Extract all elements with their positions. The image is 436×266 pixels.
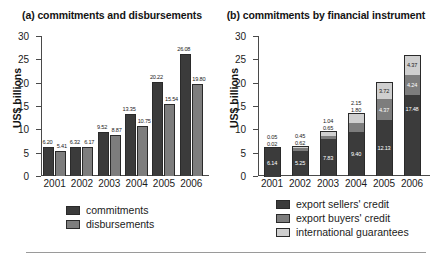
segment-value-label: 2.15 xyxy=(351,100,361,106)
bar-commitments-2004[interactable]: 13.35 xyxy=(125,114,136,176)
segment-export-sellers-credit-2003[interactable]: 7.83 xyxy=(320,139,337,176)
panel-a-ytick-label: 25 xyxy=(18,54,29,65)
segment-value-label: 1.04 xyxy=(323,118,333,124)
chart-panel-a: (a) commitments and disbursements US$ bi… xyxy=(0,0,218,250)
panel-b-ytick-label: 5 xyxy=(240,147,246,158)
bar-disbursements-2001[interactable]: 5.41 xyxy=(55,151,66,176)
legend-item-export-buyers-credit[interactable]: export buyers' credit xyxy=(276,211,409,225)
bar-disbursements-2004[interactable]: 10.75 xyxy=(137,126,148,176)
stack-2004[interactable]: 2.15 1.80 9.40 xyxy=(348,113,365,176)
bar-disbursements-2003[interactable]: 8.87 xyxy=(110,135,121,176)
bar-group-2006: 26.08 19.80 xyxy=(179,36,203,176)
segment-value-label: 0.02 xyxy=(267,141,277,147)
panel-a-ytick: 0 xyxy=(36,176,41,177)
segment-export-sellers-credit-2005[interactable]: 12.13 xyxy=(376,120,393,176)
stack-2006[interactable]: 4.37 4.24 17.48 xyxy=(404,55,421,177)
chart-panel-b: (b) commitments by financial instrument … xyxy=(214,0,436,250)
bar-value-label: 5.41 xyxy=(57,143,67,149)
segment-value-label: 4.37 xyxy=(379,107,389,113)
panel-a-legend: commitments disbursements xyxy=(66,203,154,231)
segment-export-sellers-credit-2002[interactable]: 5.25 xyxy=(292,151,309,176)
bar-group-2005: 20.22 15.54 xyxy=(152,36,176,176)
bar-disbursements-2006[interactable]: 19.80 xyxy=(192,84,203,176)
segment-value-label: 5.25 xyxy=(295,160,305,166)
panel-a-ytick-label: 5 xyxy=(23,147,29,158)
segment-value-label: 0.65 xyxy=(323,125,333,131)
panel-b-title: (b) commitments by financial instrument xyxy=(214,9,436,21)
legend-swatch-icon xyxy=(276,214,290,223)
panel-b-ytick-label: 30 xyxy=(235,31,246,42)
panel-a-ytick-label: 30 xyxy=(18,31,29,42)
segment-value-label: 0.62 xyxy=(295,140,305,146)
bottom-divider xyxy=(26,252,426,253)
bar-value-label: 6.17 xyxy=(84,139,94,145)
stacked-bar-group-2006: 4.37 4.24 17.48 xyxy=(400,36,424,176)
stack-2003[interactable]: 1.04 0.65 7.83 xyxy=(320,131,337,176)
x-label-2003: 2003 xyxy=(97,178,121,192)
bar-commitments-2006[interactable]: 26.08 xyxy=(180,54,191,176)
stack-2005[interactable]: 3.72 4.37 12.13 xyxy=(376,82,393,176)
x-label-2001: 2001 xyxy=(43,178,67,192)
panel-b-plot-area: 30 25 20 15 10 5 0 0.05 0.02 6.1 xyxy=(258,36,426,176)
segment-value-label: 12.13 xyxy=(378,145,391,151)
panel-a-ytick-label: 15 xyxy=(18,101,29,112)
bar-group-2003: 9.52 8.87 xyxy=(97,36,121,176)
bar-value-label: 9.52 xyxy=(97,124,107,130)
x-label-2005: 2005 xyxy=(152,178,176,192)
panel-b-ytick-label: 0 xyxy=(240,171,246,182)
legend-item-disbursements[interactable]: disbursements xyxy=(66,217,154,231)
bar-value-label: 10.75 xyxy=(138,118,151,124)
panel-b-ytick-label: 25 xyxy=(235,54,246,65)
segment-export-buyers-credit-2004[interactable] xyxy=(348,123,365,131)
panel-b-ytick-label: 15 xyxy=(235,101,246,112)
segment-export-sellers-credit-2004[interactable]: 9.40 xyxy=(348,132,365,177)
bar-value-label: 19.80 xyxy=(192,76,205,82)
stacked-bar-group-2001: 0.05 0.02 6.14 xyxy=(260,36,284,176)
segment-export-buyers-credit-2006[interactable]: 4.24 xyxy=(404,75,421,95)
bar-value-label: 8.87 xyxy=(111,127,121,133)
panel-b-bars: 0.05 0.02 6.14 0.45 0.62 xyxy=(258,36,426,176)
x-label-2004: 2004 xyxy=(344,178,368,192)
x-label-2006: 2006 xyxy=(400,178,424,192)
segment-export-sellers-credit-2001[interactable]: 6.14 xyxy=(264,148,281,177)
stack-2002[interactable]: 0.45 0.62 5.25 xyxy=(292,146,309,176)
segment-international-guarantees-2004[interactable]: 2.15 1.80 xyxy=(348,113,365,123)
legend-item-commitments[interactable]: commitments xyxy=(66,203,154,217)
bar-value-label: 26.08 xyxy=(177,46,190,52)
x-label-2001: 2001 xyxy=(260,178,284,192)
panel-b-ytick: 0 xyxy=(253,176,258,177)
panel-a-ytick-label: 10 xyxy=(18,124,29,135)
bar-value-label: 13.35 xyxy=(123,106,136,112)
bar-disbursements-2005[interactable]: 15.54 xyxy=(164,104,175,177)
legend-swatch-icon xyxy=(66,206,80,215)
legend-label: export buyers' credit xyxy=(296,212,390,224)
stacked-bar-group-2004: 2.15 1.80 9.40 xyxy=(344,36,368,176)
segment-export-sellers-credit-2006[interactable]: 17.48 xyxy=(404,95,421,176)
segment-value-label: 4.24 xyxy=(407,82,417,88)
segment-export-buyers-credit-2005[interactable]: 4.37 xyxy=(376,99,393,119)
bar-commitments-2003[interactable]: 9.52 xyxy=(98,132,109,176)
bar-disbursements-2002[interactable]: 6.17 xyxy=(82,147,93,176)
legend-swatch-icon xyxy=(276,228,290,237)
legend-item-export-sellers-credit[interactable]: export sellers' credit xyxy=(276,197,409,211)
bar-group-2004: 13.35 10.75 xyxy=(125,36,149,176)
segment-international-guarantees-2005[interactable]: 3.72 xyxy=(376,82,393,99)
legend-swatch-icon xyxy=(66,220,80,229)
bar-value-label: 15.54 xyxy=(165,96,178,102)
segment-value-label: 0.45 xyxy=(295,133,305,139)
x-label-2003: 2003 xyxy=(316,178,340,192)
bar-commitments-2001[interactable]: 6.20 xyxy=(43,147,54,176)
bar-value-label: 20.22 xyxy=(150,74,163,80)
segment-international-guarantees-2006[interactable]: 4.37 xyxy=(404,55,421,75)
panel-b-x-labels: 2001 2002 2003 2004 2005 2006 xyxy=(258,178,426,192)
legend-label: disbursements xyxy=(86,218,154,230)
x-label-2002: 2002 xyxy=(288,178,312,192)
bar-commitments-2002[interactable]: 6.32 xyxy=(70,147,81,177)
bar-commitments-2005[interactable]: 20.22 xyxy=(152,82,163,176)
segment-value-label: 6.14 xyxy=(267,160,277,166)
segment-value-label: 17.48 xyxy=(406,106,419,112)
stacked-bar-group-2005: 3.72 4.37 12.13 xyxy=(372,36,396,176)
legend-item-international-guarantees[interactable]: international guarantees xyxy=(276,225,409,239)
segment-value-label: 9.40 xyxy=(351,151,361,157)
stack-2001[interactable]: 0.05 0.02 6.14 xyxy=(264,147,281,176)
